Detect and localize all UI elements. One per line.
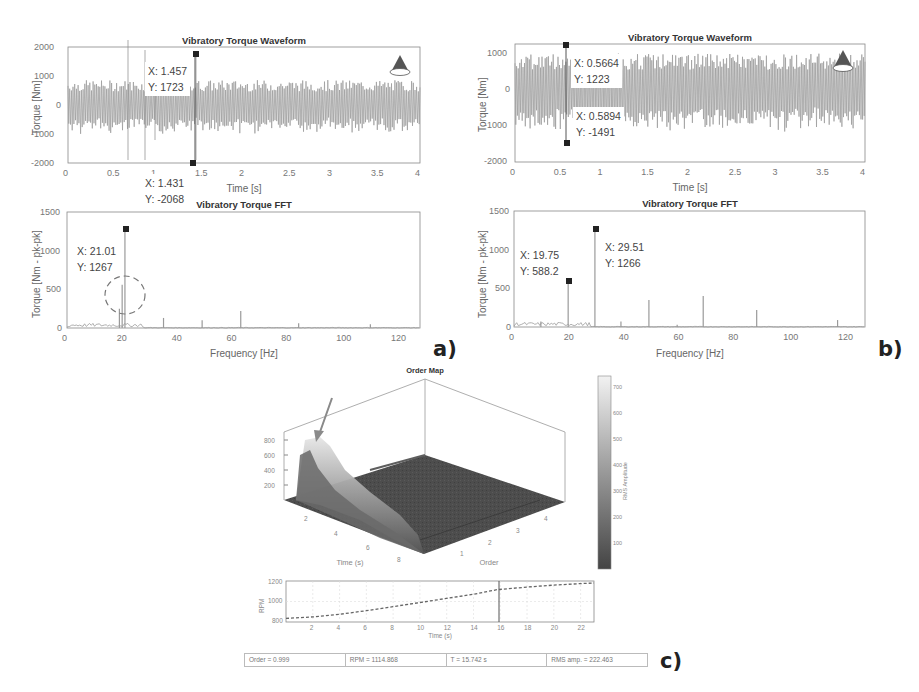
panel-a-fft-plot: [67, 212, 420, 328]
datatip-y: Y: 588.2: [520, 263, 559, 279]
x-tick: 0: [510, 167, 515, 177]
panel-b-waveform-xlabel: Time [s]: [672, 182, 707, 193]
y-tick: 0: [505, 84, 510, 94]
status-rms: RMS amp. = 222.463: [547, 654, 647, 666]
rpm-x-tick: 14: [470, 624, 477, 631]
time-tick: 6: [366, 544, 370, 551]
z-tick: 400: [264, 467, 275, 474]
x-tick: 2: [685, 167, 690, 177]
colorbar-label: RMS Amplitude: [622, 462, 628, 500]
panel-a-waveform-ylabel: Torque [Nm]: [31, 81, 42, 135]
datatip-marker: [193, 51, 199, 57]
y-tick: 500: [46, 284, 61, 294]
order-axis-label: Order: [479, 558, 498, 567]
rpm-y-tick: 1200: [268, 578, 282, 585]
datatip-y: Y: -1491: [576, 124, 621, 140]
y-tick: 1000: [40, 246, 60, 256]
datatip-x: X: 0.5664: [574, 55, 619, 71]
datatip-b-max: X: 0.5664 Y: 1223: [571, 54, 622, 88]
x-tick: 0.5: [107, 168, 120, 178]
x-tick: 120: [838, 332, 853, 342]
datatip-marker: [190, 160, 196, 166]
colorbar-tick: 100: [613, 540, 622, 546]
y-tick: 1000: [487, 48, 507, 58]
y-tick: 1500: [40, 207, 60, 217]
y-tick: 1000: [489, 245, 509, 255]
x-tick: 1.5: [641, 167, 654, 177]
datatip-b-min: X: 0.5894 Y: -1491: [573, 107, 624, 141]
rpm-ylabel: RPM: [258, 599, 265, 613]
z-tick: 200: [264, 482, 275, 489]
x-tick: 2: [239, 168, 244, 178]
rpm-y-tick: 1000: [268, 597, 282, 604]
rpm-x-tick: 22: [578, 624, 585, 631]
status-rpm: RPM = 1114.868: [346, 654, 447, 666]
y-tick: -1000: [484, 120, 507, 130]
rpm-x-tick: 16: [497, 624, 504, 631]
panel-a-waveform-title: Vibratory Torque Waveform: [182, 35, 306, 46]
colorbar-tick: 400: [613, 462, 622, 468]
panel-label-a: a): [433, 337, 457, 361]
panel-a-fft-xlabel: Frequency [Hz]: [210, 348, 278, 359]
z-tick: 800: [264, 437, 275, 444]
datatip-y: Y: -2068: [145, 191, 184, 207]
colorbar-tick: 700: [613, 384, 622, 390]
x-tick: 60: [674, 332, 684, 342]
z-tick: 600: [264, 452, 275, 459]
panel-a-waveform-xlabel: Time [s]: [226, 183, 261, 194]
y-tick: 0: [57, 323, 62, 333]
datatip-x: X: 21.01: [77, 243, 116, 259]
rpm-x-tick: 4: [337, 624, 341, 631]
panel-b-fft-xlabel: Frequency [Hz]: [656, 348, 724, 359]
order-tick: 3: [516, 527, 520, 534]
colorbar-tick: 500: [613, 436, 622, 442]
rpm-xlabel: Time (s): [428, 632, 452, 639]
x-tick: 3: [327, 168, 332, 178]
panel-label-b: b): [878, 337, 903, 361]
datatip-y: Y: 1266: [605, 255, 644, 271]
order-map-status-bar: Order = 0.999 RPM = 1114.868 T = 15.742 …: [244, 653, 648, 667]
order-tick: 2: [488, 539, 492, 546]
y-tick: 1000: [34, 71, 54, 81]
x-tick: 4: [860, 167, 865, 177]
datatip-marker: [123, 226, 129, 232]
time-tick: 4: [334, 530, 338, 537]
panel-a-fft-ylabel: Torque [Nm - pk-pk]: [31, 230, 42, 318]
rpm-y-tick: 800: [272, 617, 283, 624]
rpm-x-tick: 6: [363, 624, 367, 631]
status-time: T = 15.742 s: [447, 654, 548, 666]
datatip-a-max: X: 1.457 Y: 1723: [145, 62, 190, 96]
x-tick: 60: [227, 333, 237, 343]
panel-a-waveform-plot: [68, 40, 420, 166]
x-tick: 120: [391, 333, 406, 343]
datatip-x: X: 1.457: [148, 63, 187, 79]
x-tick: 0: [509, 332, 514, 342]
order-map-3d: [284, 379, 565, 554]
x-tick: 3: [773, 167, 778, 177]
x-tick: 0: [63, 168, 68, 178]
panel-b-waveform-title: Vibratory Torque Waveform: [628, 32, 752, 43]
panel-b-fft-ylabel: Torque [Nm - pk-pk]: [477, 230, 488, 318]
datatip-y: Y: 1223: [574, 71, 619, 87]
datatip-b-fft-2: X: 29.51 Y: 1266: [602, 238, 647, 272]
datatip-x: X: 0.5894: [576, 108, 621, 124]
colorbar-tick: 600: [613, 410, 622, 416]
x-tick: 1.5: [195, 168, 208, 178]
y-tick: 2000: [34, 42, 54, 52]
panel-b-fft-plot: [514, 211, 865, 327]
datatip-marker: [593, 226, 599, 232]
datatip-marker: [566, 278, 572, 284]
x-tick: 2.5: [283, 168, 296, 178]
y-tick: 0: [56, 100, 61, 110]
x-tick: 40: [172, 333, 182, 343]
x-tick: 0: [62, 333, 67, 343]
panel-b-fft-title: Vibratory Torque FFT: [642, 198, 738, 209]
y-tick: -1000: [31, 129, 54, 139]
x-tick: 80: [728, 332, 738, 342]
datatip-y: Y: 1723: [148, 79, 187, 95]
order-tick: 1: [460, 550, 464, 557]
y-tick: -2000: [484, 156, 507, 166]
x-tick: 3.5: [371, 168, 384, 178]
datatip-a-min: X: 1.431 Y: -2068: [142, 174, 187, 208]
datatip-marker: [563, 42, 569, 48]
